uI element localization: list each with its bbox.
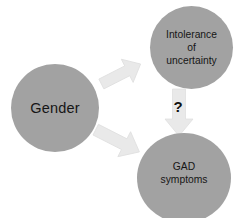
node-gad-symptoms-label: GAD symptoms (137, 160, 231, 186)
arrow-gender-to-intolerance (97, 57, 145, 91)
node-gad-symptoms[interactable]: GAD symptoms (137, 133, 231, 218)
arrow-gender-to-gad (91, 123, 145, 159)
node-gender-label: Gender (11, 100, 99, 116)
node-gender[interactable]: Gender (11, 64, 99, 152)
node-intolerance-of-uncertainty-label: Intolerance of uncertainty (150, 28, 233, 68)
unknown-path-question-mark: ? (167, 95, 189, 117)
node-intolerance-of-uncertainty[interactable]: Intolerance of uncertainty (150, 6, 233, 89)
diagram-canvas: ? Gender Intolerance of uncertainty GAD … (0, 0, 235, 218)
